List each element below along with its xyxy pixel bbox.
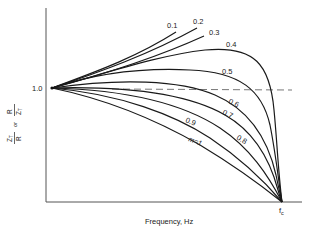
curve-label-0.5: 0.5	[222, 67, 232, 76]
curve-0.9	[52, 88, 282, 202]
y-label-r-over-zt-num: R	[6, 109, 13, 114]
curve-label-m1: m=1	[188, 135, 203, 146]
curve-0.2	[52, 28, 197, 88]
curve-0.7	[52, 88, 282, 202]
curve-0.6	[52, 82, 282, 202]
curve-0.8	[52, 88, 282, 202]
y-label-or: or	[12, 121, 18, 127]
curve-label-0.7: 0.7	[221, 108, 234, 121]
y-axis-label: ZT R or R ZT	[6, 104, 23, 144]
curve-label-0.6: 0.6	[227, 97, 240, 110]
curve-0.4	[52, 49, 282, 202]
x-tick-fc: fc	[279, 206, 284, 216]
curve-label-0.3: 0.3	[209, 28, 219, 37]
curve-0.1	[52, 32, 176, 88]
curve-label-0.4: 0.4	[226, 40, 236, 49]
origin-point	[50, 86, 53, 89]
curve-label-0.8: 0.8	[235, 133, 249, 146]
y-label-zt-over-r-den: R	[15, 136, 22, 141]
curve-m1	[52, 88, 282, 202]
y-tick-1-0: 1.0	[32, 84, 42, 93]
y-label-r-over-zt-den: ZT	[15, 108, 23, 115]
curve-label-0.9: 0.9	[184, 116, 197, 128]
y-label-zt-over-r-num: ZT	[6, 135, 14, 142]
curves	[52, 28, 282, 202]
x-axis-label: Frequency, Hz	[145, 217, 193, 226]
chart: 0.1 0.2 0.3 0.4 0.5 0.6 0.7 0.8 0.9 m=1 …	[0, 0, 312, 230]
curve-label-0.1: 0.1	[167, 21, 177, 30]
curve-label-0.2: 0.2	[193, 17, 203, 26]
